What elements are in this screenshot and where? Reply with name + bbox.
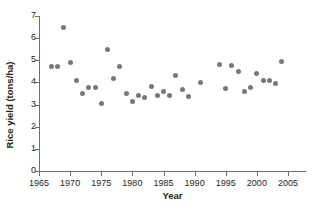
scatter-point: [155, 93, 160, 98]
scatter-point: [198, 80, 203, 85]
scatter-point: [279, 59, 284, 64]
scatter-point: [49, 64, 54, 69]
scatter-point: [105, 47, 110, 52]
scatter-point: [80, 91, 85, 96]
scatter-point: [130, 99, 135, 104]
scatter-point: [229, 63, 234, 68]
scatter-point: [242, 89, 247, 94]
y-axis-tick-label: 7: [31, 10, 36, 21]
scatter-point: [142, 95, 147, 100]
x-axis-tick-label: 2000: [247, 178, 267, 189]
x-axis-tick-label: 1980: [122, 178, 142, 189]
scatter-point: [124, 91, 129, 96]
chart-figure: 01234567 1965197019751980198519901995200…: [0, 0, 318, 210]
x-axis-tick-label: 1970: [60, 178, 80, 189]
scatter-point: [180, 87, 185, 92]
scatter-point: [117, 64, 122, 69]
y-axis-tick-label: 3: [31, 99, 36, 110]
scatter-point: [74, 78, 79, 83]
scatter-point: [254, 71, 259, 76]
y-axis-tick-label: 2: [31, 121, 36, 132]
scatter-point: [161, 89, 166, 94]
scatter-point: [99, 101, 104, 106]
y-axis-tick-label: 0: [31, 165, 36, 176]
y-axis-title: Rice yield (tons/ha): [2, 0, 16, 210]
scatter-point: [136, 93, 141, 98]
scatter-point: [236, 69, 241, 74]
scatter-point: [273, 81, 278, 86]
scatter-point: [186, 94, 191, 99]
scatter-point: [173, 73, 178, 78]
x-axis-tick-mark: [288, 172, 289, 176]
y-axis-tick-label: 4: [31, 76, 36, 87]
plot-area: 01234567: [39, 16, 305, 171]
scatter-point: [217, 62, 222, 67]
x-axis-tick-mark: [164, 172, 165, 176]
scatter-point: [86, 85, 91, 90]
x-axis-tick-mark: [132, 172, 133, 176]
x-axis-tick-label: 1990: [185, 178, 205, 189]
x-axis-tick-mark: [195, 172, 196, 176]
x-axis-tick-label: 2005: [278, 178, 298, 189]
x-axis-tick-mark: [226, 172, 227, 176]
scatter-point: [261, 78, 266, 83]
scatter-point: [267, 78, 272, 83]
scatter-point: [167, 93, 172, 98]
x-axis-tick-label: 1995: [216, 178, 236, 189]
scatter-point: [55, 64, 60, 69]
y-axis-tick-label: 1: [31, 143, 36, 154]
x-axis-tick-mark: [101, 172, 102, 176]
scatter-point: [223, 86, 228, 91]
scatter-point: [111, 76, 116, 81]
scatter-point: [149, 84, 154, 89]
x-axis-tick-mark: [39, 172, 40, 176]
x-axis-tick-label: 1985: [153, 178, 173, 189]
x-axis-tick-mark: [257, 172, 258, 176]
x-axis-tick-label: 1965: [29, 178, 49, 189]
scatter-point: [61, 25, 66, 30]
x-axis-line: [39, 171, 306, 172]
x-axis-title: Year: [39, 190, 306, 201]
scatter-point: [68, 60, 73, 65]
y-axis-tick-label: 5: [31, 54, 36, 65]
scatter-point: [93, 85, 98, 90]
x-axis-tick-label: 1975: [91, 178, 111, 189]
y-axis-tick-label: 6: [31, 32, 36, 43]
scatter-point: [248, 85, 253, 90]
x-axis-tick-mark: [70, 172, 71, 176]
